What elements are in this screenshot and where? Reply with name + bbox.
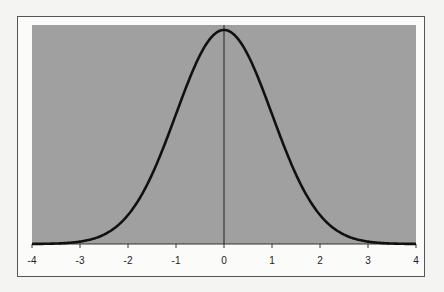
x-tick-label: 2 [317, 255, 323, 266]
x-axis-ticks [32, 244, 416, 248]
x-tick-label: 3 [365, 255, 371, 266]
x-tick-label: -3 [76, 255, 85, 266]
normal-distribution-chart: -4-3-2-101234 [0, 0, 444, 292]
x-tick-label: -2 [124, 255, 133, 266]
x-tick-label: -1 [172, 255, 181, 266]
x-axis-tick-labels: -4-3-2-101234 [28, 255, 420, 266]
x-tick-label: -4 [28, 255, 37, 266]
x-tick-label: 0 [221, 255, 227, 266]
x-tick-label: 1 [269, 255, 275, 266]
x-tick-label: 4 [413, 255, 419, 266]
